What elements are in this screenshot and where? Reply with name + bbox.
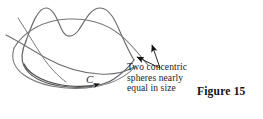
inner-sphere-diagonal-strand [18,18,66,82]
sphere-diagram-canvas [0,0,263,119]
figure-number-label: Figure 15 [197,85,246,97]
annotation-caption: Two concentric spheres nearly equal in s… [127,62,187,94]
contour-label-c: C [86,73,93,85]
caption-line-3: equal in size [127,83,187,94]
caption-line-2: spheres nearly [127,73,187,84]
caption-line-1: Two concentric [127,62,187,73]
outer-sphere-wavy-curve [26,8,134,60]
figure-15-illustration: C Two concentric spheres nearly equal in… [0,0,263,119]
